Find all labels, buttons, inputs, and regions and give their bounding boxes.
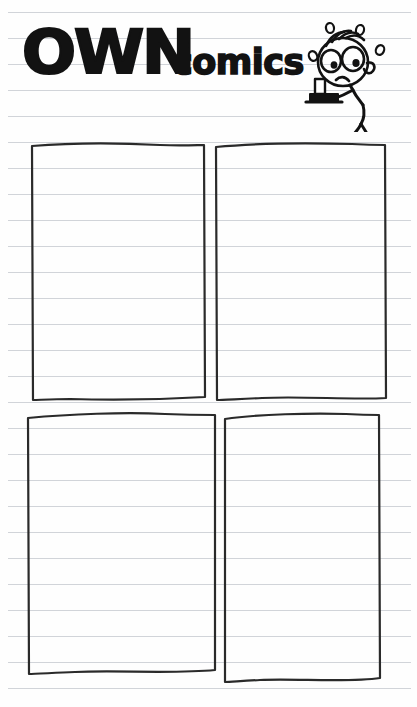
comic-panel-3[interactable]	[25, 412, 221, 680]
comic-worksheet-page: OWN comics	[0, 0, 417, 707]
comic-panel-4[interactable]	[222, 412, 386, 688]
comic-panel-2[interactable]	[212, 142, 390, 408]
masthead: OWN comics	[0, 0, 417, 135]
worried-stick-boy-icon	[298, 18, 416, 132]
page-title-own: OWN	[22, 22, 193, 82]
comic-panel-1[interactable]	[30, 142, 208, 408]
page-title-comics: comics	[172, 45, 304, 80]
rule-line	[8, 688, 411, 689]
